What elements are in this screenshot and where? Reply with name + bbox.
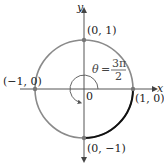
theta-denominator: 2	[115, 70, 122, 83]
point-neg1-0-label: (−1, 0)	[3, 75, 42, 88]
theta-equals: =	[101, 63, 110, 76]
point-1-0-label: (1, 0)	[135, 92, 164, 105]
theta-numerator: 3π	[112, 57, 126, 70]
point-0-neg1-dot	[82, 136, 86, 140]
point-0-neg1-label: (0, −1)	[87, 142, 126, 155]
point-1-0-dot	[131, 87, 135, 91]
theta-symbol: θ	[92, 63, 99, 76]
origin-label: 0	[86, 90, 93, 103]
y-axis-label: y	[76, 1, 84, 14]
point-0-1-label: (0, 1)	[87, 24, 117, 37]
point-0-1-dot	[82, 38, 86, 42]
unit-circle-diagram: y x 0 θ = 3π 2 (0, 1) (−1, 0) (1, 0) (0,…	[0, 0, 164, 168]
